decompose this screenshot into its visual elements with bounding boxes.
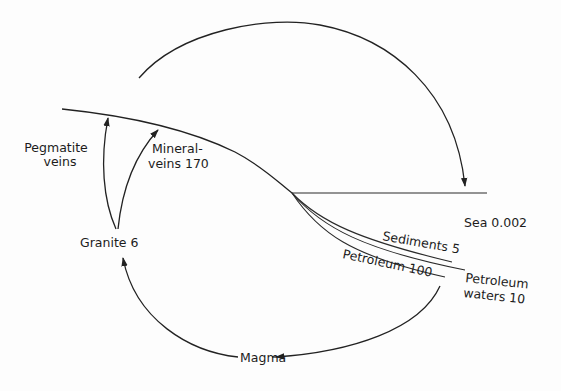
petroleum-label: Petroleum 100: [341, 246, 433, 280]
pegmatite-label-line1: Pegmatite: [24, 140, 88, 155]
mineral-veins-label-line1: Mineral-: [152, 141, 203, 156]
granite-to-pegmatite-arrow: [104, 118, 116, 229]
granite-label: Granite 6: [80, 235, 138, 250]
pegmatite-label-line2: veins: [44, 154, 77, 169]
magma-label: Magma: [240, 350, 286, 365]
magma-to-granite-arrow: [123, 258, 238, 357]
mineral-veins-label-line2: veins 170: [148, 156, 209, 171]
petroleum-to-magma-arrow: [276, 286, 440, 357]
cycle-diagram: Pegmatite veins Mineral- veins 170 Grani…: [0, 0, 561, 391]
sea-label: Sea 0.002: [464, 215, 527, 230]
diagram-canvas: Pegmatite veins Mineral- veins 170 Grani…: [0, 0, 561, 391]
